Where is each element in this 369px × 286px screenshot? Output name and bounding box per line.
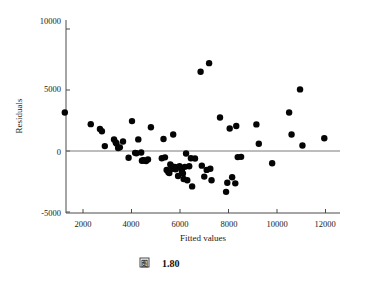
x-tick-label-6000: 6000	[172, 219, 189, 229]
data-point	[186, 163, 192, 169]
x-tick-label-12000: 12000	[314, 219, 335, 229]
data-point	[102, 143, 108, 149]
data-point	[217, 114, 223, 120]
data-point	[256, 140, 262, 146]
data-point	[145, 156, 151, 162]
data-point	[229, 174, 235, 180]
scatter-plot: 10000 5000 0 -5000 2000 4000 6000 8000 1…	[0, 0, 369, 286]
data-point	[238, 154, 244, 160]
data-point	[288, 131, 294, 137]
data-point	[184, 177, 190, 183]
data-point	[117, 144, 123, 150]
data-point	[201, 173, 207, 179]
data-point	[183, 150, 189, 156]
caption-symbol: 图	[141, 259, 148, 268]
data-point	[299, 142, 305, 148]
data-point	[197, 69, 203, 75]
data-point	[88, 121, 94, 127]
data-point	[160, 136, 166, 142]
data-point	[120, 138, 126, 144]
x-tick-label-4000: 4000	[123, 219, 140, 229]
data-point	[62, 109, 68, 115]
data-point	[207, 165, 213, 171]
y-tick-label-minus5000: -5000	[41, 208, 61, 218]
data-point	[99, 128, 105, 134]
data-point	[208, 177, 214, 183]
caption-number: 1.80	[162, 258, 180, 269]
data-point	[253, 121, 259, 127]
data-point	[297, 86, 303, 92]
data-point	[232, 180, 238, 186]
figure-container: 10000 5000 0 -5000 2000 4000 6000 8000 1…	[0, 0, 369, 286]
data-point	[189, 183, 195, 189]
data-point	[223, 189, 229, 195]
data-point	[148, 124, 154, 130]
data-point	[180, 170, 186, 176]
y-tick-label-5000: 5000	[44, 84, 61, 94]
data-point	[170, 131, 176, 137]
data-point	[162, 154, 168, 160]
x-axis-tickmarks	[83, 209, 326, 213]
data-point	[199, 162, 205, 168]
y-tick-label-10000: 10000	[40, 16, 61, 26]
data-point	[192, 155, 198, 161]
y-tick-label-0: 0	[57, 147, 61, 157]
x-tick-label-10000: 10000	[266, 219, 287, 229]
data-point	[138, 149, 144, 155]
y-axis-tickmarks	[66, 29, 70, 212]
data-point	[321, 135, 327, 141]
x-axis-title: Fitted values	[180, 233, 227, 243]
data-points-layer	[62, 60, 328, 195]
data-point	[125, 155, 131, 161]
data-point	[286, 109, 292, 115]
data-point	[269, 160, 275, 166]
y-axis-title: Residuals	[14, 98, 24, 133]
x-tick-label-8000: 8000	[221, 219, 238, 229]
data-point	[227, 125, 233, 131]
data-point	[135, 136, 141, 142]
data-point	[129, 118, 135, 124]
x-tick-label-2000: 2000	[75, 219, 92, 229]
data-point	[206, 60, 212, 66]
data-point	[233, 123, 239, 129]
data-point	[224, 180, 230, 186]
